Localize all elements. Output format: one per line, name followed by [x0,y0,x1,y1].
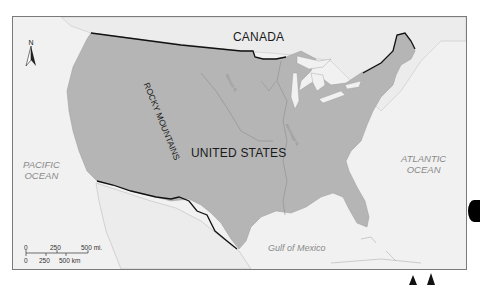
label-pacific-ocean: PACIFIC OCEAN [23,159,60,181]
label-mexico: MEXICO [168,268,217,270]
scale-km-500: 500 km [59,257,80,264]
scale-km-0: 0 [24,257,28,264]
page-edge-mark [468,200,480,222]
scale-mi-0: 0 [24,244,28,251]
label-united-states: UNITED STATES [191,146,287,160]
scale-mi-500: 500 mi. [81,244,102,251]
north-label: N [24,39,38,46]
page-corner-marks [403,273,443,285]
atlantic-line1: ATLANTIC [401,153,446,164]
us-map-svg [13,17,466,269]
label-gulf-of-mexico: Gulf of Mexico [268,243,326,253]
north-arrow-icon [24,46,38,68]
scale-mi-250: 250 [50,244,61,251]
caribbean-islands [331,237,421,263]
label-canada: CANADA [233,30,284,44]
north-arrow: N [24,39,38,69]
atlantic-line2: OCEAN [401,164,446,175]
label-atlantic-ocean: ATLANTIC OCEAN [401,153,446,175]
scale-km-250: 250 [39,257,50,264]
pacific-line1: PACIFIC [23,159,60,170]
map-frame: N CANADA UNITED STATES MEXICO ROCKY MOUN… [12,16,467,270]
pacific-line2: OCEAN [23,170,60,181]
